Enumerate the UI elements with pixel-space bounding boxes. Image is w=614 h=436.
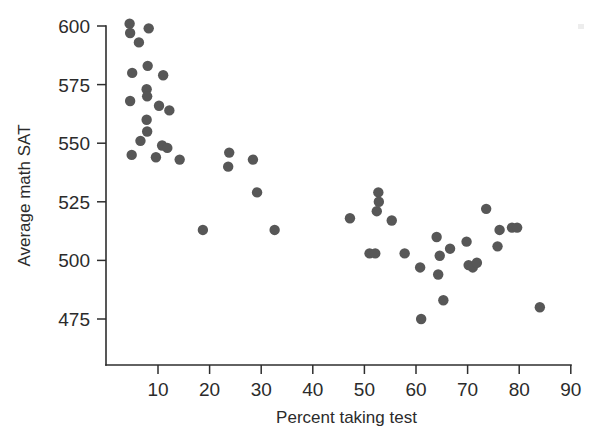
y-axis-title: Average math SAT bbox=[15, 124, 34, 266]
data-point bbox=[269, 225, 279, 235]
x-axis-tick-label: 70 bbox=[457, 379, 478, 400]
data-point bbox=[372, 206, 382, 216]
data-point bbox=[125, 96, 135, 106]
data-point bbox=[142, 61, 152, 71]
data-point bbox=[248, 154, 258, 164]
data-point bbox=[345, 213, 355, 223]
data-point bbox=[174, 154, 184, 164]
data-point bbox=[415, 262, 425, 272]
y-axis-tick-label: 475 bbox=[58, 309, 90, 330]
data-point bbox=[223, 161, 233, 171]
data-point bbox=[535, 302, 545, 312]
data-point bbox=[438, 295, 448, 305]
data-point bbox=[512, 222, 522, 232]
data-point bbox=[373, 187, 383, 197]
data-point bbox=[224, 147, 234, 157]
data-point bbox=[435, 251, 445, 261]
data-point bbox=[164, 105, 174, 115]
data-point bbox=[481, 204, 491, 214]
data-point bbox=[154, 101, 164, 111]
data-point bbox=[461, 236, 471, 246]
x-axis-tick-label: 10 bbox=[147, 379, 168, 400]
plot-canvas: 475500525550575600102030405060708090 Per… bbox=[0, 0, 614, 436]
data-point bbox=[370, 248, 380, 258]
data-point bbox=[135, 136, 145, 146]
data-point bbox=[151, 152, 161, 162]
data-point bbox=[144, 23, 154, 33]
y-axis-tick-label: 500 bbox=[58, 250, 90, 271]
x-axis-tick-label: 80 bbox=[509, 379, 530, 400]
data-point bbox=[374, 197, 384, 207]
x-axis-tick-label: 20 bbox=[199, 379, 220, 400]
data-point bbox=[125, 28, 135, 38]
data-point bbox=[492, 241, 502, 251]
data-point bbox=[124, 18, 134, 28]
data-point bbox=[399, 248, 409, 258]
y-axis-tick-label: 575 bbox=[58, 75, 90, 96]
scatter-plot-figure: 475500525550575600102030405060708090 Per… bbox=[0, 0, 614, 436]
data-point bbox=[445, 243, 455, 253]
y-axis-tick-label: 525 bbox=[58, 192, 90, 213]
y-axis-tick-label: 600 bbox=[58, 16, 90, 37]
data-point bbox=[494, 225, 504, 235]
data-point bbox=[127, 68, 137, 78]
data-point bbox=[126, 150, 136, 160]
x-axis-title: Percent taking test bbox=[276, 408, 417, 427]
data-point bbox=[416, 314, 426, 324]
x-axis-tick-label: 40 bbox=[302, 379, 323, 400]
data-point bbox=[252, 187, 262, 197]
x-axis-tick-label: 90 bbox=[560, 379, 581, 400]
data-point bbox=[158, 70, 168, 80]
data-point-layer bbox=[124, 18, 545, 324]
data-point bbox=[472, 258, 482, 268]
data-point bbox=[433, 269, 443, 279]
y-axis-tick-label: 550 bbox=[58, 133, 90, 154]
data-point bbox=[198, 225, 208, 235]
data-point bbox=[141, 115, 151, 125]
data-point bbox=[142, 91, 152, 101]
x-axis-tick-label: 50 bbox=[354, 379, 375, 400]
data-point bbox=[142, 126, 152, 136]
data-point bbox=[431, 232, 441, 242]
data-point bbox=[162, 143, 172, 153]
data-point bbox=[387, 215, 397, 225]
x-axis-tick-label: 30 bbox=[251, 379, 272, 400]
data-point bbox=[134, 37, 144, 47]
scan-artifact bbox=[578, 24, 584, 29]
x-axis-tick-label: 60 bbox=[405, 379, 426, 400]
